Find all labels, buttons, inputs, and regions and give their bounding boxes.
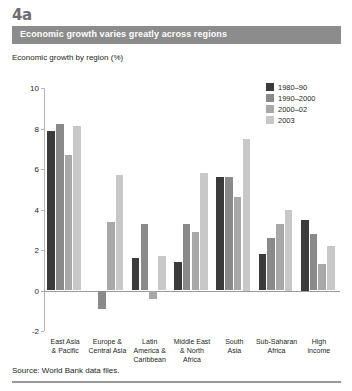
chart-subtitle: Economic growth by region (%): [12, 53, 123, 62]
legend-item: 2000–02: [266, 104, 316, 114]
y-axis-tick-label: 6: [35, 165, 39, 174]
x-axis-category-label: Sub-SaharanAfrica: [255, 337, 297, 355]
y-axis-tick-label: 8: [35, 124, 39, 133]
bar: [56, 124, 64, 290]
legend-item: 1990–2000: [266, 93, 316, 103]
bar: [65, 155, 73, 291]
y-axis-tick-mark: [41, 210, 44, 211]
y-axis-tick-mark: [41, 291, 44, 292]
bar: [216, 177, 224, 290]
bottom-rule: [12, 381, 341, 383]
bar: [310, 234, 318, 291]
bar: [98, 291, 106, 309]
bar: [47, 131, 55, 291]
legend-label: 2003: [278, 116, 295, 125]
y-axis-tick-label: 2: [35, 246, 39, 255]
bar: [73, 126, 81, 290]
bar: [141, 224, 149, 291]
bar: [183, 224, 191, 291]
legend-swatch: [266, 116, 274, 124]
x-axis-category-label: LatinAmerica &Caribbean: [129, 337, 171, 364]
bar: [243, 139, 251, 291]
legend-item: 2003: [266, 115, 316, 125]
bar: [132, 258, 140, 290]
bar: [225, 177, 233, 290]
figure-number: 4a: [12, 6, 32, 24]
bar: [192, 232, 200, 291]
y-axis-tick-label: 10: [30, 84, 39, 93]
bar: [267, 238, 275, 291]
y-axis-tick-mark: [41, 250, 44, 251]
figure-banner: Economic growth varies greatly across re…: [12, 26, 341, 44]
y-axis-tick-label: 0: [35, 286, 39, 295]
bar: [301, 220, 309, 291]
x-axis-category-label: Highincome: [298, 337, 340, 355]
figure-banner-title: Economic growth varies greatly across re…: [20, 29, 227, 39]
bar: [259, 254, 267, 290]
y-axis-tick-label: -2: [32, 327, 39, 336]
legend-label: 1990–2000: [278, 94, 316, 103]
bar: [285, 210, 293, 291]
bar: [200, 173, 208, 290]
zero-line: [44, 291, 340, 292]
legend-label: 1980–90: [278, 83, 307, 92]
x-axis-category-label: Europe &Central Asia: [86, 337, 128, 355]
legend-label: 2000–02: [278, 105, 307, 114]
bar: [158, 256, 166, 290]
x-axis-category-label: Middle East& NorthAfrica: [171, 337, 213, 364]
bar: [318, 264, 326, 290]
x-axis-category-label: SouthAsia: [213, 337, 255, 355]
y-axis-tick-mark: [41, 331, 44, 332]
legend-swatch: [266, 94, 274, 102]
bar: [116, 175, 124, 290]
y-axis-tick-label: 4: [35, 205, 39, 214]
legend-swatch: [266, 83, 274, 91]
bar: [149, 291, 157, 299]
figure-page: 4a Economic growth varies greatly across…: [0, 0, 352, 391]
bar: [174, 262, 182, 290]
bar: [107, 222, 115, 291]
y-axis-line: [44, 88, 45, 331]
legend-item: 1980–90: [266, 82, 316, 92]
legend-swatch: [266, 105, 274, 113]
source-note: Source: World Bank data files.: [12, 366, 119, 375]
y-axis-tick-mark: [41, 169, 44, 170]
chart-legend: 1980–901990–20002000–022003: [266, 82, 316, 126]
y-axis-tick-mark: [41, 88, 44, 89]
bar: [276, 224, 284, 291]
bar: [234, 197, 242, 290]
bar: [327, 246, 335, 291]
x-axis-category-label: East Asia& Pacific: [44, 337, 86, 355]
y-axis-tick-mark: [41, 129, 44, 130]
